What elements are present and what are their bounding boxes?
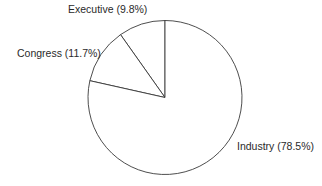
label-congress: Congress (11.7%) (17, 48, 101, 59)
label-industry: Industry (78.5%) (237, 141, 314, 152)
pie-slices (88, 21, 242, 175)
label-executive: Executive (9.8%) (68, 4, 147, 15)
pie-chart (0, 0, 322, 186)
